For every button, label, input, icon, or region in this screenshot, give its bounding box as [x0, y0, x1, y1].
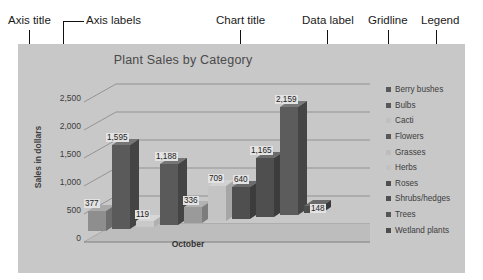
- chart-legend: Berry bushes Bulbs Cacti Flowers Grasses…: [386, 82, 465, 238]
- legend-item-label: Shrubs/hedges: [395, 194, 450, 203]
- legend-swatch-icon: [386, 87, 391, 92]
- legend-item-herbs[interactable]: Herbs: [386, 160, 465, 176]
- legend-item-cacti[interactable]: Cacti: [386, 113, 465, 129]
- legend-swatch-icon: [386, 118, 391, 123]
- data-label-cacti: 119: [135, 210, 150, 219]
- bar-roses: [232, 181, 259, 219]
- legend-item-flowers[interactable]: Flowers: [386, 129, 465, 145]
- data-label-berry-bushes: 377: [84, 199, 100, 208]
- data-label-roses: 640: [233, 175, 249, 184]
- bar-shrubs-hedges: [256, 152, 283, 217]
- annotation-label-gridline: Gridline: [368, 14, 408, 27]
- leader-line-axis-labels-elbow: [63, 21, 84, 22]
- legend-item-trees[interactable]: Trees: [386, 207, 465, 223]
- legend-item-label: Flowers: [395, 132, 424, 141]
- annotation-label-chart-title: Chart title: [216, 14, 265, 27]
- legend-item-label: Cacti: [395, 116, 414, 125]
- legend-item-label: Trees: [395, 210, 416, 219]
- x-axis-category-label: October: [128, 239, 248, 249]
- legend-item-label: Berry bushes: [395, 85, 443, 94]
- legend-swatch-icon: [386, 196, 391, 201]
- legend-item-label: Wetland plants: [395, 226, 449, 235]
- data-label-shrubs-hedges: 1,165: [250, 146, 273, 155]
- bar-trees: [280, 101, 307, 215]
- legend-item-label: Grasses: [395, 148, 425, 157]
- annotated-chart-figure: Axis title Axis labels Chart title Data …: [0, 0, 483, 280]
- legend-item-roses[interactable]: Roses: [386, 176, 465, 192]
- data-label-grasses: 336: [183, 196, 199, 205]
- bar-herbs: [208, 180, 235, 221]
- data-label-herbs: 709: [208, 174, 224, 183]
- annotation-label-axis-labels: Axis labels: [86, 14, 141, 27]
- annotation-label-data-label: Data label: [302, 14, 354, 27]
- data-label-flowers: 1,188: [155, 152, 178, 161]
- legend-swatch-icon: [386, 103, 391, 108]
- bar-berry-bushes: [88, 205, 115, 231]
- legend-item-grasses[interactable]: Grasses: [386, 144, 465, 160]
- annotation-label-legend: Legend: [421, 14, 459, 27]
- data-label-trees: 2,159: [275, 95, 298, 104]
- legend-item-berry-bushes[interactable]: Berry bushes: [386, 82, 465, 98]
- legend-swatch-icon: [386, 212, 391, 217]
- legend-item-label: Bulbs: [395, 101, 415, 110]
- legend-item-label: Roses: [395, 179, 418, 188]
- legend-swatch-icon: [386, 228, 391, 233]
- legend-item-bulbs[interactable]: Bulbs: [386, 98, 465, 114]
- legend-item-shrubs-hedges[interactable]: Shrubs/hedges: [386, 191, 465, 207]
- legend-swatch-icon: [386, 134, 391, 139]
- legend-item-wetland-plants[interactable]: Wetland plants: [386, 222, 465, 238]
- legend-swatch-icon: [386, 181, 391, 186]
- chart-panel: Plant Sales by Category Sales in dollars…: [18, 44, 465, 273]
- legend-item-label: Herbs: [395, 163, 417, 172]
- legend-swatch-icon: [386, 165, 391, 170]
- data-label-bulbs: 1,595: [106, 133, 129, 142]
- data-label-wetland-plants: 148: [310, 204, 326, 213]
- bar-flowers: [160, 158, 187, 225]
- annotation-label-axis-title: Axis title: [8, 14, 51, 27]
- legend-swatch-icon: [386, 150, 391, 155]
